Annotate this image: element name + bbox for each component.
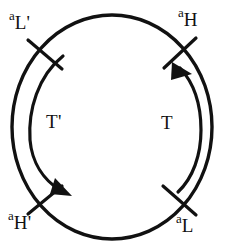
arc-T-prime-arrowhead: [50, 178, 72, 196]
site-label-a-H: aH: [178, 6, 198, 29]
main-circle: [12, 15, 212, 239]
site-subscript-a-L: L: [182, 215, 194, 236]
site-label-a-H-prime: aH': [8, 209, 31, 232]
arc-label-T-prime: T': [46, 112, 62, 131]
site-subscript-a-H-prime: H': [14, 212, 32, 233]
site-subscript-a-L-prime: L': [15, 12, 30, 33]
figure-root: aL' aH aH' aL T' T: [0, 0, 231, 251]
site-label-a-L-prime: aL': [9, 9, 30, 32]
arc-T-path: [178, 68, 201, 192]
site-subscript-a-H: H: [184, 9, 198, 30]
diagram-canvas: [0, 0, 231, 251]
arc-label-T: T: [161, 113, 173, 132]
site-label-a-L: aL: [176, 212, 194, 235]
